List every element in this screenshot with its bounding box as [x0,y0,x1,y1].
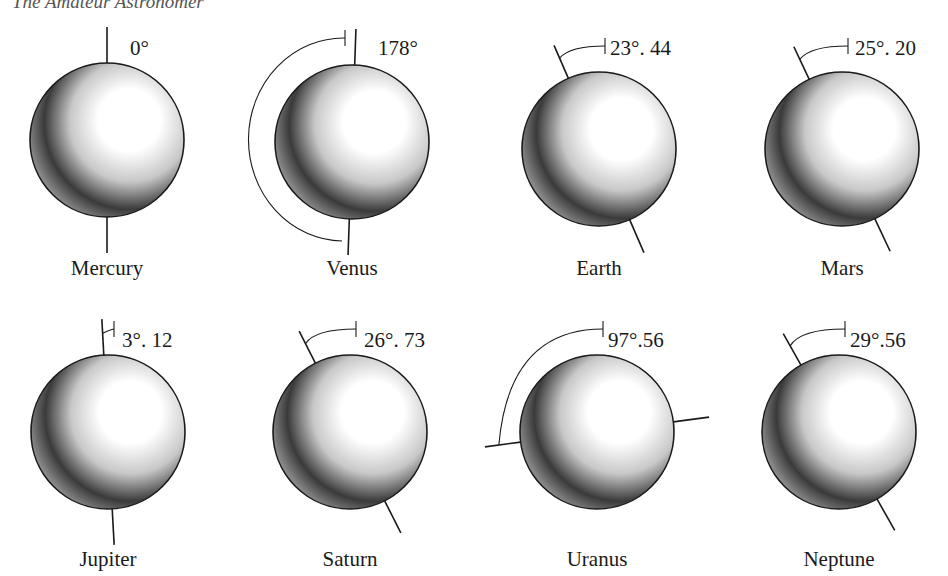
planet-jupiter: 3°. 12Jupiter [31,319,185,571]
sphere-neptune [762,355,916,509]
south-axis-uranus [673,417,709,422]
tilt-label-earth: 23°. 44 [610,36,671,60]
planet-name-earth: Earth [576,256,622,280]
tilt-arc-neptune [790,329,845,346]
planet-name-saturn: Saturn [323,547,378,571]
tilt-label-mars: 25°. 20 [855,36,916,60]
sphere-mercury [30,63,184,217]
tilt-arc-saturn [305,329,356,344]
sphere-venus [275,65,429,219]
planet-name-venus: Venus [326,256,377,280]
south-axis-saturn [385,501,401,533]
planet-name-jupiter: Jupiter [79,547,136,571]
tilt-arc-earth [560,46,605,58]
planet-mercury: 0°Mercury [30,27,184,280]
axial-tilt-diagram: 0°Mercury178°Venus23°. 44Earth25°. 20Mar… [0,0,948,576]
north-axis-earth [554,45,568,78]
north-axis-saturn [299,331,315,363]
planet-earth: 23°. 44Earth [522,36,676,280]
tilt-label-mercury: 0° [130,36,149,60]
south-axis-venus [355,29,356,65]
north-axis-mars [794,47,809,80]
tilt-label-venus: 178° [378,36,418,60]
north-axis-uranus [485,442,521,447]
planet-name-mercury: Mercury [71,256,144,280]
south-axis-jupiter [112,509,114,545]
south-axis-earth [630,220,644,253]
north-axis-venus [348,219,349,255]
planet-name-neptune: Neptune [803,547,874,571]
sphere-earth [522,72,676,226]
tilt-label-uranus: 97°.56 [608,328,664,352]
south-axis-mars [875,219,890,252]
planet-venus: 178°Venus [248,29,429,280]
planet-saturn: 26°. 73Saturn [273,321,427,571]
planet-name-uranus: Uranus [567,547,628,571]
tilt-label-neptune: 29°.56 [850,328,906,352]
tilt-arc-mars [800,46,848,59]
planet-name-mars: Mars [820,256,863,280]
planet-neptune: 29°.56Neptune [762,321,916,571]
north-axis-jupiter [102,319,104,355]
tilt-label-jupiter: 3°. 12 [122,328,172,352]
planet-uranus: 97°.56Uranus [485,321,709,571]
sphere-uranus [520,355,674,509]
sphere-jupiter [31,355,185,509]
tilt-arc-jupiter [103,329,114,333]
tilt-label-saturn: 26°. 73 [364,328,425,352]
planet-mars: 25°. 20Mars [765,36,919,280]
sphere-saturn [273,355,427,509]
south-axis-neptune [877,499,895,530]
sphere-mars [765,72,919,226]
